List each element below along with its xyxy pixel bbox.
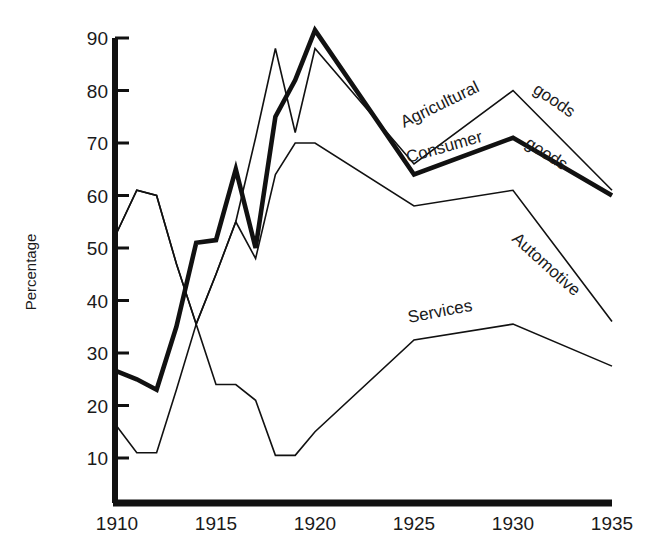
y-tick-label-60: 60 (87, 186, 108, 207)
x-tick-label-1930: 1930 (492, 513, 534, 534)
x-tick-label-1915: 1915 (195, 513, 237, 534)
series-label-consumer-goods: goods (522, 133, 571, 174)
series-label-services: Services (406, 296, 474, 327)
x-tick-label-1910: 1910 (96, 513, 138, 534)
y-tick-label-40: 40 (87, 291, 108, 312)
y-tick-label-30: 30 (87, 343, 108, 364)
x-tick-label-1935: 1935 (591, 513, 633, 534)
x-tick-label-1925: 1925 (393, 513, 435, 534)
y-tick-label-10: 10 (87, 448, 108, 469)
y-tick-label-90: 90 (87, 28, 108, 49)
y-axis-title: Percentage (22, 234, 39, 311)
series-line-services (117, 324, 612, 455)
series-labels: Agricultural goods Consumer goods Automo… (397, 77, 584, 327)
x-tick-label-1920: 1920 (294, 513, 336, 534)
series-line-automotive (117, 143, 612, 324)
series-label-automotive: Automotive (508, 229, 584, 300)
y-tick-labels: 90 80 70 60 50 40 30 20 10 (87, 28, 108, 469)
y-tick-label-20: 20 (87, 396, 108, 417)
line-chart: 90 80 70 60 50 40 30 20 10 1910 1915 192… (0, 0, 651, 558)
y-tick-label-70: 70 (87, 133, 108, 154)
y-tick-label-50: 50 (87, 238, 108, 259)
x-tick-labels: 1910 1915 1920 1925 1930 1935 (96, 513, 633, 534)
y-tick-label-80: 80 (87, 81, 108, 102)
chart-container: 90 80 70 60 50 40 30 20 10 1910 1915 192… (0, 0, 651, 558)
